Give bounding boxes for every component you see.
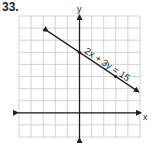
- y-axis-label: y: [77, 4, 82, 14]
- coordinate-graph: x y 2x + 3y = 15: [0, 0, 163, 146]
- point-marker: [78, 51, 81, 54]
- x-axis-label: x: [143, 112, 148, 122]
